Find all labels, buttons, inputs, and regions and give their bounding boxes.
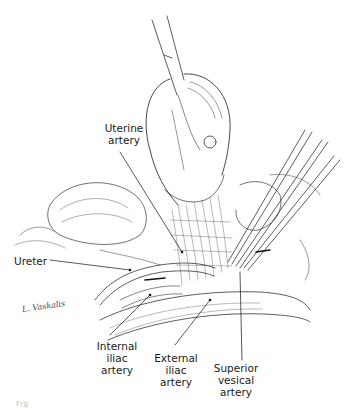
anatomical-illustration: Uterine artery Ureter Internal iliac art…	[0, 0, 351, 410]
leader-lines	[50, 152, 242, 360]
label-external-iliac-artery: External iliac artery	[148, 352, 204, 388]
pelvic-anatomy-drawing	[0, 0, 351, 410]
figure-caption: Fig	[16, 400, 29, 408]
clamp-instruments-right	[228, 130, 340, 270]
label-superior-vesical-artery: Superior vesical artery	[206, 362, 266, 398]
uterus	[146, 74, 230, 205]
label-internal-iliac-artery: Internal iliac artery	[90, 340, 144, 376]
clamp-instrument-top	[152, 16, 184, 95]
external-iliac-artery-structure	[100, 292, 310, 340]
label-ureter: Ureter	[14, 255, 47, 267]
adnexa-left	[15, 183, 160, 265]
broad-ligament-tissue	[170, 195, 232, 285]
label-uterine-artery: Uterine artery	[98, 122, 150, 146]
internal-iliac-structure	[120, 286, 182, 308]
